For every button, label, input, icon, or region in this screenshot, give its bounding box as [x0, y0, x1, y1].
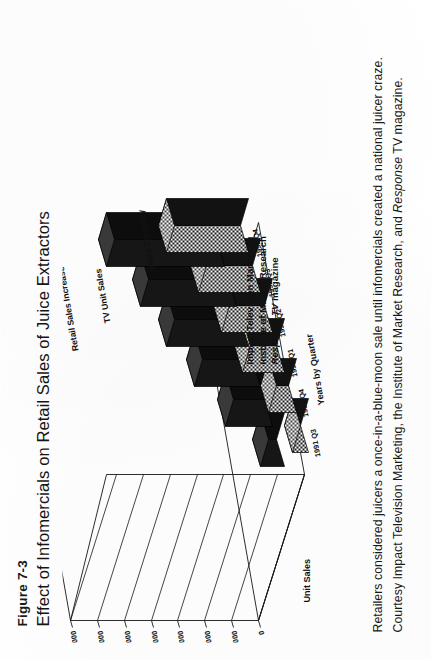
series-labels: Retail Sales Increase TV Unit Sales — [62, 265, 112, 351]
source-credit: Impact Television Marketing Institute of… — [243, 236, 281, 365]
chart-3d-bar: 0 200,000 400,000 600,000 800,000 1,000,… — [62, 172, 330, 642]
credit-magazine-suffix: magazine — [268, 257, 279, 303]
figure-title: Effect of Infomercials on Retail Sales o… — [33, 211, 52, 626]
credit-magazine: Response TV — [268, 303, 279, 364]
value-ticks — [70, 620, 260, 627]
figure-caption: Retailers considered juicers a once-in-a… — [368, 26, 408, 632]
series-label-tv: TV Unit Sales — [93, 267, 112, 323]
category-axis-title: Years by Quarter — [304, 332, 326, 405]
svg-text:600,000: 600,000 — [175, 630, 188, 642]
series-label-retail: Retail Sales Increase — [62, 265, 80, 351]
svg-text:200,000: 200,000 — [229, 630, 242, 642]
credit-line-3: Response TV magazine — [268, 236, 281, 365]
chart-svg: 0 200,000 400,000 600,000 800,000 1,000,… — [62, 172, 330, 642]
figure-number: Figure 7-3 — [14, 559, 29, 626]
value-axis-title: Unit Sales — [301, 558, 311, 602]
bar-tv-1992Q4 — [158, 198, 248, 252]
svg-text:1991 Q3: 1991 Q3 — [308, 428, 322, 457]
svg-text:800,000: 800,000 — [149, 630, 162, 642]
scanned-book-page: Figure 7-3 Effect of Infomercials on Ret… — [0, 0, 431, 660]
caption-part-3: TV magazine. — [390, 77, 404, 157]
svg-text:1,400,000: 1,400,000 — [68, 630, 82, 642]
caption-magazine: Response — [390, 156, 404, 212]
credit-line-1: Impact Television Marketing — [243, 236, 256, 365]
value-tick-labels: 0 200,000 400,000 600,000 800,000 1,000,… — [68, 630, 266, 642]
value-gridlines — [70, 474, 304, 620]
svg-text:1,000,000: 1,000,000 — [122, 630, 136, 642]
credit-line-2: Institute of Market Research — [256, 236, 269, 365]
svg-text:0: 0 — [256, 630, 266, 635]
svg-text:1,200,000: 1,200,000 — [95, 630, 109, 642]
svg-text:400,000: 400,000 — [202, 630, 215, 642]
